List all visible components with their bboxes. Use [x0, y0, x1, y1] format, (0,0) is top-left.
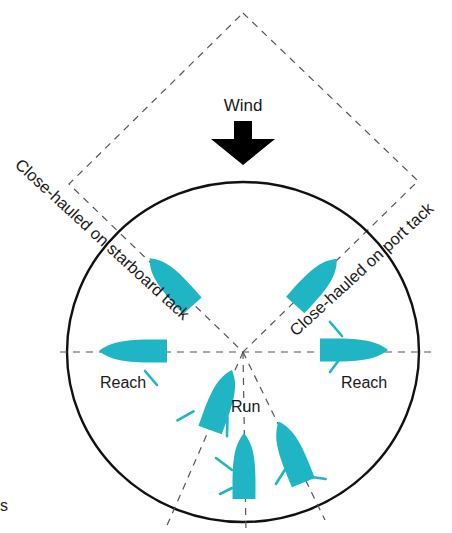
sail-sheet-line	[177, 407, 193, 424]
cropped-edge-text: s	[0, 497, 8, 515]
boat-hull-icon	[232, 433, 255, 499]
boat-hull-icon	[267, 417, 315, 488]
points-of-sailing-diagram: Wind Close-hauled on starboard tack Clos…	[0, 0, 452, 533]
boat-run-right	[255, 413, 326, 497]
label-reach-right: Reach	[341, 374, 387, 391]
boat-reach-right	[320, 322, 388, 372]
label-reach-left: Reach	[100, 374, 146, 391]
boat-hull-icon	[320, 338, 388, 361]
sail-sheet-line	[330, 322, 342, 336]
boat-hull-icon	[99, 339, 167, 362]
down-arrow-icon	[211, 121, 275, 165]
wind-indicator: Wind	[211, 96, 275, 165]
label-close-hauled-starboard: Close-hauled on starboard tack	[12, 155, 194, 324]
boat-run-center	[216, 433, 256, 499]
sail-sheet-line	[145, 371, 157, 385]
sail-sheet-line	[216, 458, 232, 470]
sail-sheet-line	[220, 488, 232, 494]
label-run: Run	[231, 398, 260, 415]
wind-label: Wind	[224, 96, 263, 115]
